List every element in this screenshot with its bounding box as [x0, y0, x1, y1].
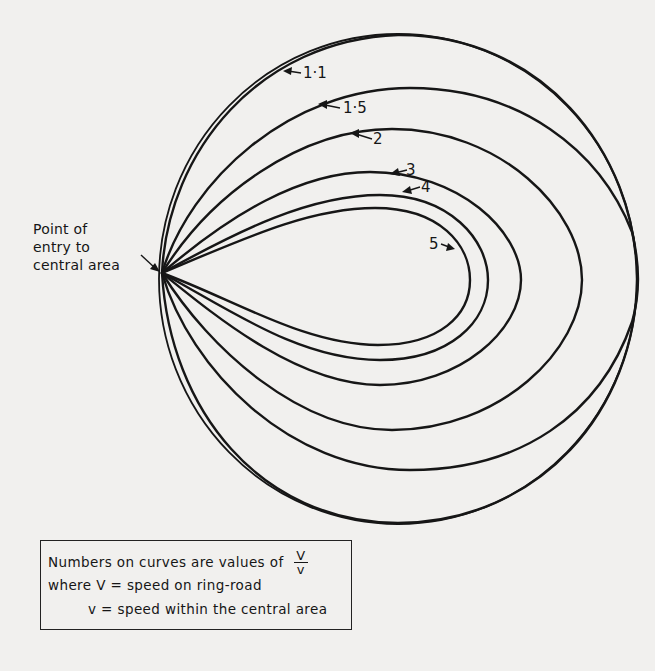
arrowhead-icon	[446, 243, 455, 251]
ratio-curve: 1·1	[162, 35, 637, 523]
legend-line-2: where V = speed on ring-road	[48, 573, 351, 597]
ratio-fraction: V v	[294, 549, 307, 576]
entry-point-label: Point of entry to central area	[33, 220, 120, 274]
curve-value-label: 2	[373, 130, 383, 148]
label-leader-line	[325, 105, 340, 108]
ratio-curve: 1·5	[162, 88, 638, 470]
arrowhead-icon	[402, 186, 412, 194]
fraction-denominator: v	[294, 563, 307, 576]
entry-label-line-2: entry to	[33, 238, 120, 256]
legend-line-3: v = speed within the central area	[48, 597, 351, 621]
curve-value-label: 1·1	[303, 64, 327, 82]
arrowhead-icon	[318, 100, 327, 109]
fraction-numerator: V	[294, 549, 307, 563]
ring-road-circle	[159, 34, 637, 524]
ratio-curve: 3	[162, 161, 521, 385]
legend-box: Numbers on curves are values of V v wher…	[40, 540, 352, 630]
curve-line	[162, 172, 521, 385]
arrowhead-icon	[350, 129, 359, 138]
legend-text-1: Numbers on curves are values of	[48, 554, 284, 570]
entry-label-line-1: Point of	[33, 220, 120, 238]
curve-line	[162, 88, 638, 470]
entry-label-line-3: central area	[33, 256, 120, 274]
curve-value-label: 4	[421, 178, 431, 196]
curve-line	[162, 35, 637, 523]
ratio-curve: 5	[162, 208, 470, 345]
curve-line	[162, 208, 470, 345]
ratio-curve: 4	[162, 178, 488, 360]
curve-value-label: 3	[406, 161, 416, 179]
curve-value-label: 5	[429, 235, 439, 253]
legend-line-1: Numbers on curves are values of V v	[48, 549, 351, 573]
curve-value-label: 1·5	[343, 99, 367, 117]
